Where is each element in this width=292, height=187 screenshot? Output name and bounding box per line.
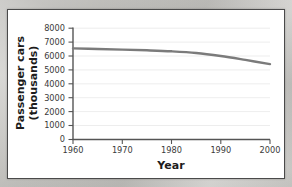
y-axis-label: Passenger cars (thousands): [14, 36, 40, 131]
y-tick-label: 1000: [44, 120, 65, 130]
y-tick-label: 7000: [44, 37, 65, 47]
chart-svg: 0 1000 2000 3000 4000 5000 6000 7000 800…: [8, 10, 284, 178]
x-tick-label: 1980: [161, 145, 182, 155]
y-tick-label: 8000: [44, 23, 65, 33]
y-tick-label: 6000: [44, 51, 65, 61]
y-tick-label: 5000: [44, 65, 65, 75]
line-chart-figure: 0 1000 2000 3000 4000 5000 6000 7000 800…: [8, 10, 284, 178]
chart-panel: 0 1000 2000 3000 4000 5000 6000 7000 800…: [7, 9, 285, 179]
y-tick-label: 2000: [44, 107, 65, 117]
x-tick-label: 1960: [63, 145, 84, 155]
x-axis-label: Year: [156, 159, 185, 172]
y-tick-label: 4000: [44, 79, 65, 89]
y-axis-label-line2: (thousands): [27, 46, 40, 121]
y-tick-labels: 0 1000 2000 3000 4000 5000 6000 7000 800…: [44, 23, 65, 144]
y-tick-label: 0: [60, 134, 65, 144]
x-tick-labels: 1960 1970 1980 1990 2000: [63, 145, 281, 155]
x-tick-label: 1990: [210, 145, 231, 155]
x-tick-label: 1970: [112, 145, 133, 155]
gridlines: [73, 28, 270, 139]
x-tick-label: 2000: [260, 145, 281, 155]
y-axis-label-line1: Passenger cars: [14, 36, 27, 131]
y-tick-label: 3000: [44, 93, 65, 103]
